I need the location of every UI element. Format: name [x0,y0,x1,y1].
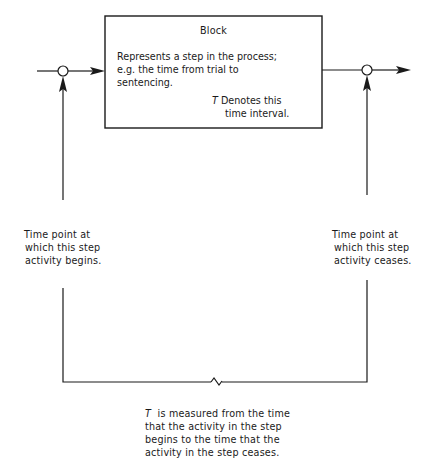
t-symbol: T [145,408,151,419]
interval-bracket-left [63,288,211,382]
block-description-line: Represents a step in the process; [117,50,277,63]
end-time-point-circle [362,65,372,75]
block-t-note-line: time interval. [225,107,289,120]
end-label-line: which this step [334,241,409,254]
start-time-point-circle [58,66,68,76]
interval-bracket-right [222,280,367,382]
block-t-note: T Denotes this [212,94,281,107]
t-symbol: T [212,95,218,106]
end-label-line: activity ceases. [334,254,412,267]
bottom-note-line: activity in the step ceases. [145,446,279,459]
start-label-line: Time point at [24,228,90,241]
bottom-note-line: begins to the time that the [145,433,280,446]
start-label-line: activity begins. [25,254,102,267]
bottom-note-line: T is measured from the time [145,407,290,420]
bottom-note-text: is measured from the time [158,408,291,419]
block-t-note-line: Denotes this [221,95,281,106]
bottom-note-line: that the activity in the step [145,420,282,433]
end-label-line: Time point at [332,228,398,241]
block-title: Block [105,24,322,37]
block-description-line: sentencing. [117,76,173,89]
interval-break-icon [211,378,222,385]
block-description-line: e.g. the time from trial to [117,63,239,76]
block: Block Represents a step in the process; … [105,16,322,128]
start-label-line: which this step [25,241,100,254]
